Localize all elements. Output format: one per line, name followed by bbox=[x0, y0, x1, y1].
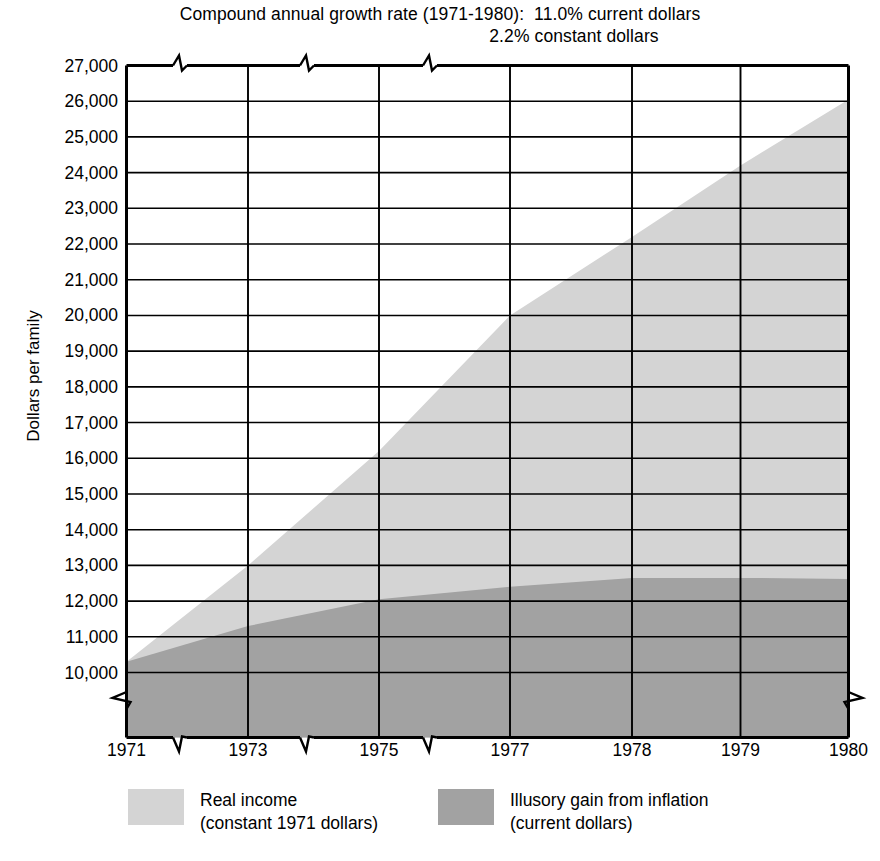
axis-break-mark-top bbox=[423, 56, 437, 71]
axis-break-mark-top bbox=[173, 56, 187, 71]
chart-legend: Real income (constant 1971 dollars) Illu… bbox=[0, 789, 880, 855]
legend-swatch-real-income bbox=[128, 789, 184, 825]
legend-label-illusory-gain: Illusory gain from inflation bbox=[510, 789, 708, 812]
plot-area bbox=[0, 0, 880, 861]
chart-container: Compound annual growth rate (1971-1980):… bbox=[0, 0, 880, 861]
legend-swatch-illusory-gain bbox=[438, 789, 494, 825]
legend-sublabel-illusory-gain: (current dollars) bbox=[510, 812, 708, 835]
axis-break-mark-top bbox=[300, 56, 314, 71]
axis-break-mark-bottom bbox=[300, 737, 314, 752]
axis-break-mark-bottom bbox=[423, 737, 437, 752]
axis-break-mark-bottom bbox=[173, 737, 187, 752]
legend-item-real-income: Real income (constant 1971 dollars) bbox=[128, 789, 378, 835]
legend-sublabel-real-income: (constant 1971 dollars) bbox=[200, 812, 378, 835]
legend-item-illusory-gain: Illusory gain from inflation (current do… bbox=[438, 789, 708, 835]
legend-label-real-income: Real income bbox=[200, 789, 378, 812]
